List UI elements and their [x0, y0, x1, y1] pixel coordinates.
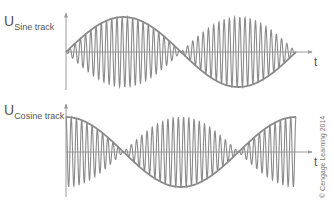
sine-track-label: USine track: [4, 14, 54, 28]
cosine-track-plot: [66, 104, 312, 197]
sine-t-axis-label: t: [314, 56, 317, 68]
sine-track-label-main: U: [4, 13, 14, 29]
cosine-track-label: UCosine track: [4, 103, 64, 117]
sine-track-label-sub: Sine track: [14, 22, 54, 32]
sine-track-plot: [66, 13, 312, 90]
copyright-notice: © Cengage Learning 2014: [319, 116, 326, 198]
cosine-track-label-main: U: [4, 102, 14, 118]
cosine-track-label-sub: Cosine track: [14, 111, 64, 121]
cosine-t-axis-label: t: [314, 156, 317, 168]
